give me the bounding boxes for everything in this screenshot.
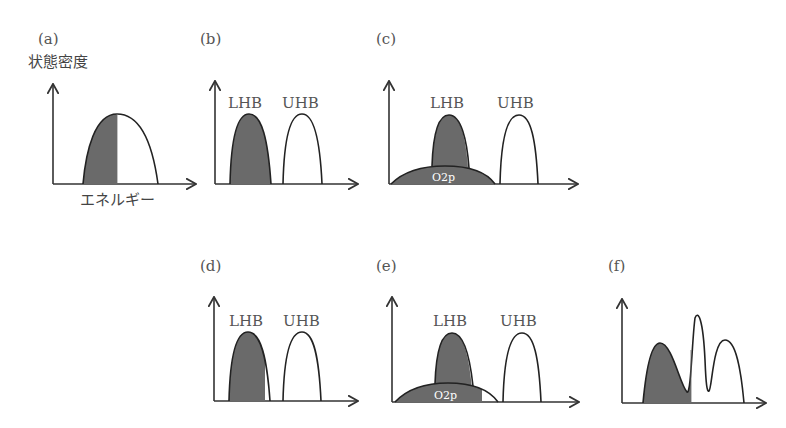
panel-b: (b) LHB UHB: [200, 30, 357, 184]
lhb-label: LHB: [229, 312, 263, 330]
lhb-label: LHB: [433, 312, 467, 330]
lhb-band-filled: [230, 114, 271, 184]
panel-label-a: (a): [38, 30, 59, 48]
filled-states: [83, 114, 158, 184]
uhb-band-empty: [283, 332, 321, 401]
panel-label-d: (d): [200, 257, 221, 275]
panel-label-c: (c): [376, 30, 396, 48]
lhb-label: LHB: [430, 94, 464, 112]
dos-diagram: (a) 状態密度 エネルギー (b) LHB UHB (c) LHB UHB O…: [0, 0, 786, 428]
o2p-label: O2p: [434, 389, 457, 402]
y-axis-title: 状態密度: [28, 53, 88, 71]
uhb-band-empty: [503, 333, 541, 402]
panel-e: (e) LHB UHB O2p: [376, 257, 578, 402]
uhb-label: UHB: [497, 94, 534, 112]
panel-label-e: (e): [376, 257, 397, 275]
panel-c: (c) LHB UHB O2p: [376, 30, 577, 184]
panel-a: (a) 状態密度 エネルギー: [28, 30, 195, 209]
uhb-label: UHB: [500, 312, 537, 330]
lhb-band-partially-filled: [229, 332, 270, 401]
panel-label-b: (b): [200, 30, 221, 48]
o2p-label: O2p: [432, 171, 455, 184]
panel-label-f: (f): [608, 257, 625, 275]
uhb-label: UHB: [283, 312, 320, 330]
panel-d: (d) LHB UHB: [200, 257, 357, 401]
uhb-band-empty: [500, 115, 538, 184]
panel-f: (f): [608, 257, 765, 403]
uhb-band-empty: [283, 114, 322, 184]
x-axis-title: エネルギー: [80, 191, 155, 209]
lhb-label: LHB: [228, 94, 262, 112]
uhb-label: UHB: [282, 94, 319, 112]
